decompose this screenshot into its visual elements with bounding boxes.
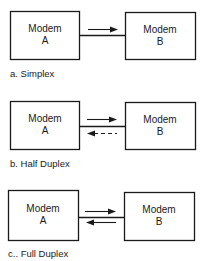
- half-duplex-caption: b. Half Duplex: [10, 158, 70, 169]
- half-duplex-diagram: Modem A Modem B b. Half Duplex: [10, 102, 196, 170]
- right-arrow-icon: [85, 209, 116, 215]
- modem-a-letter: A: [42, 35, 49, 46]
- modem-a-letter: A: [40, 215, 47, 226]
- modem-b-label: Modem: [143, 114, 176, 125]
- full-duplex-caption: c.. Full Duplex: [8, 248, 68, 259]
- full-duplex-diagram: Modem A Modem B c.. Full Duplex: [8, 191, 195, 260]
- transmission-modes-diagram: Modem A Modem B a. Simplex Modem A Modem…: [0, 0, 203, 261]
- modem-b-letter: B: [157, 126, 164, 137]
- modem-b-letter: B: [156, 216, 163, 227]
- modem-a-label: Modem: [28, 23, 61, 34]
- simplex-caption: a. Simplex: [10, 68, 55, 79]
- right-arrow-icon: [88, 27, 118, 33]
- modem-b-label: Modem: [142, 204, 175, 215]
- dashed-left-arrow-icon: [87, 131, 117, 137]
- modem-b-letter: B: [157, 36, 164, 47]
- modem-b-label: Modem: [143, 24, 176, 35]
- modem-a-letter: A: [42, 125, 49, 136]
- modem-a-label: Modem: [26, 203, 59, 214]
- modem-a-label: Modem: [28, 113, 61, 124]
- left-arrow-icon: [86, 220, 116, 226]
- simplex-diagram: Modem A Modem B a. Simplex: [10, 12, 196, 80]
- right-arrow-icon: [87, 117, 117, 123]
